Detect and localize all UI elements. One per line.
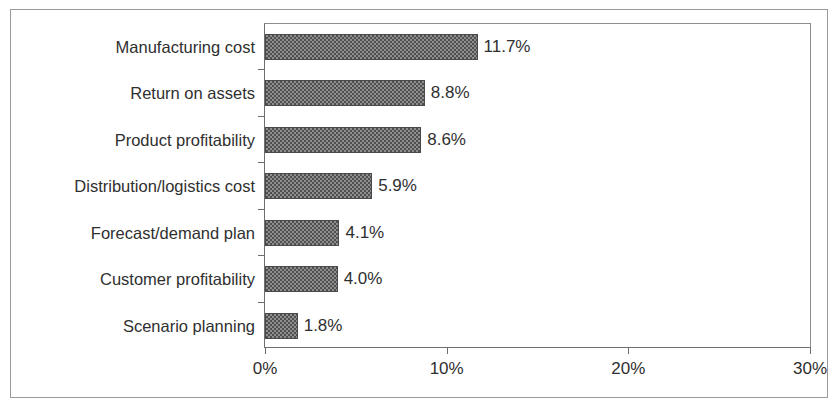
category-label: Scenario planning — [123, 303, 265, 349]
x-axis-label-20: 20% — [611, 359, 645, 379]
bar-row: Return on assets 8.8% — [265, 70, 810, 116]
category-label: Forecast/demand plan — [91, 210, 265, 256]
x-axis-label-10: 10% — [430, 359, 464, 379]
bar-row: Product profitability 8.6% — [265, 117, 810, 163]
category-label: Distribution/logistics cost — [74, 163, 265, 209]
x-axis-label-30: 30% — [793, 359, 827, 379]
x-axis-label-0: 0% — [253, 359, 278, 379]
bar-customer-profitability — [265, 266, 338, 292]
bar-row: Scenario planning 1.8% — [265, 303, 810, 349]
bar-product-profitability — [265, 127, 421, 153]
bar-row: Forecast/demand plan 4.1% — [265, 210, 810, 256]
bar-value-label: 11.7% — [478, 34, 531, 60]
bar-row: Customer profitability 4.0% — [265, 256, 810, 302]
bar-distribution-logistics-cost — [265, 173, 372, 199]
category-label: Return on assets — [130, 70, 265, 116]
category-label: Customer profitability — [100, 256, 265, 302]
x-axis-tick — [447, 347, 448, 354]
bar-value-label: 8.8% — [425, 80, 470, 106]
category-label: Manufacturing cost — [116, 24, 265, 70]
bar-value-label: 4.0% — [338, 266, 383, 292]
bar-manufacturing-cost — [265, 34, 478, 60]
x-axis-tick — [810, 347, 811, 354]
bar-row: Distribution/logistics cost 5.9% — [265, 163, 810, 209]
bar-value-label: 1.8% — [298, 313, 343, 339]
x-axis-tick — [628, 347, 629, 354]
bar-forecast-demand-plan — [265, 220, 339, 246]
bar-return-on-assets — [265, 80, 425, 106]
chart-figure: Manufacturing cost 11.7% Return on asset… — [10, 9, 828, 398]
bar-row: Manufacturing cost 11.7% — [265, 24, 810, 70]
bar-scenario-planning — [265, 313, 298, 339]
category-label: Product profitability — [115, 117, 265, 163]
bar-value-label: 5.9% — [372, 173, 417, 199]
x-axis-tick — [265, 347, 266, 354]
bar-value-label: 4.1% — [339, 220, 384, 246]
plot-area: Manufacturing cost 11.7% Return on asset… — [264, 23, 811, 348]
bar-value-label: 8.6% — [421, 127, 466, 153]
